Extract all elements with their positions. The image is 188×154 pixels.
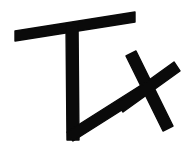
glyph-canvas: Tx [0,0,188,154]
glyph-drawing: Tx [0,0,188,154]
t-stem [66,23,79,140]
